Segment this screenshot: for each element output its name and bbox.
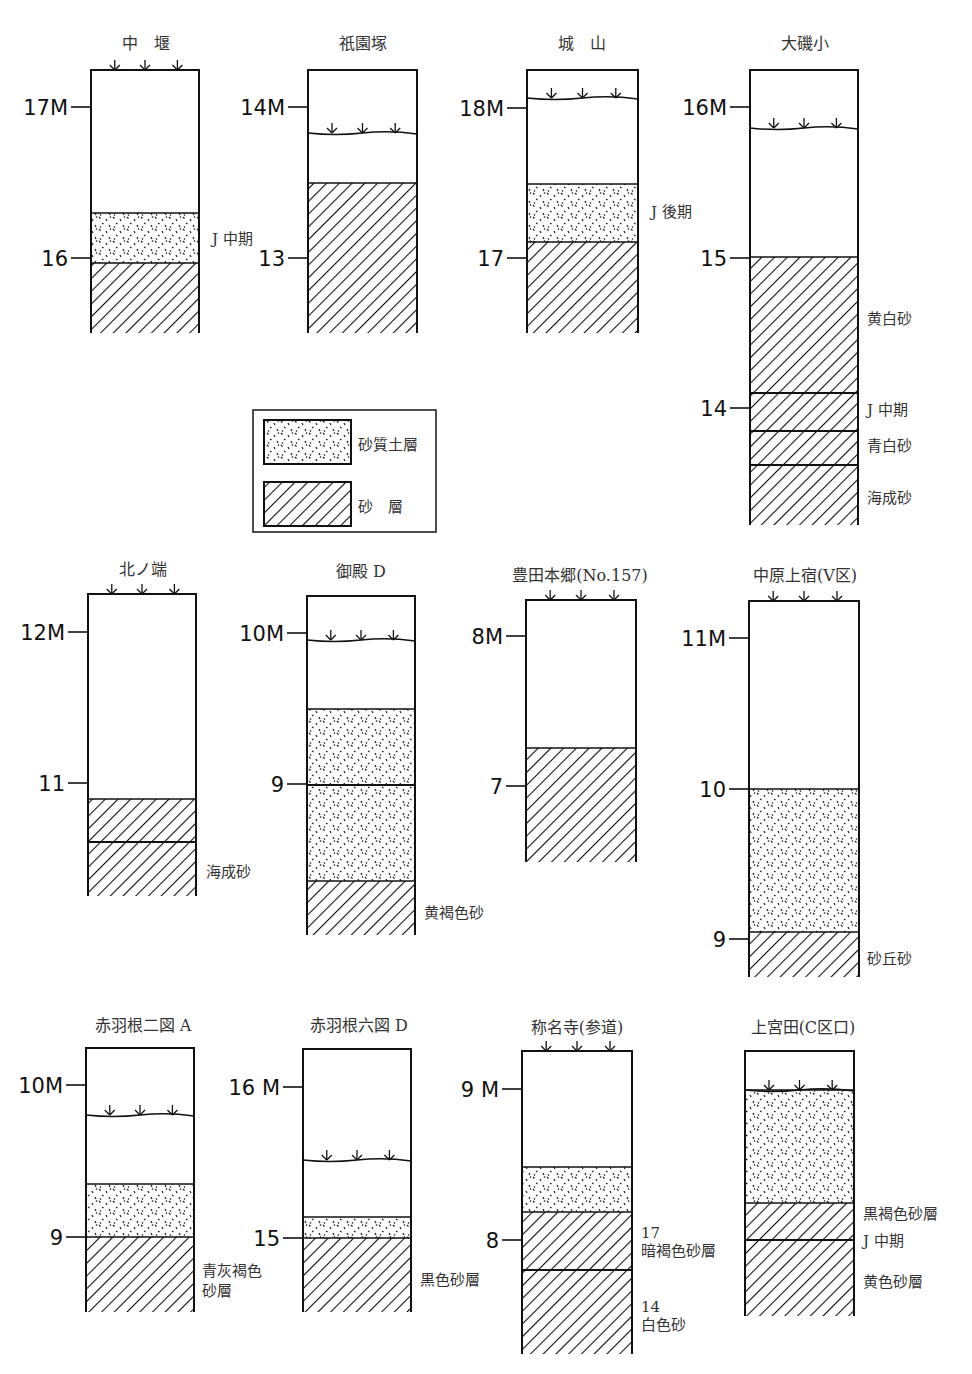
ground-surface-marker <box>768 591 842 601</box>
layer-annotation: J 中期 <box>210 230 253 248</box>
column-title: 中 堰 <box>122 34 170 53</box>
elevation-tick-label: 17M <box>23 96 68 120</box>
column-title: 御殿 D <box>336 562 386 581</box>
elevation-tick-label: 16 M <box>228 1076 280 1100</box>
layer-sandy-soil <box>745 1090 854 1203</box>
layer-sand <box>86 1237 194 1312</box>
column-nakaharakamishuku: 中原上宿(V区)11M109砂丘砂 <box>681 566 912 977</box>
layer-annotation: 青灰褐色 <box>202 1262 262 1280</box>
column-title: 上宮田(C区口) <box>751 1018 856 1037</box>
layer-sandy-soil <box>749 789 859 932</box>
layer-sand <box>303 1238 411 1312</box>
legend-label: 砂 層 <box>358 498 403 516</box>
layer-sand <box>88 799 196 896</box>
ground-surface-marker <box>107 584 180 594</box>
column-nakaseki: 中 堰17M16J 中期 <box>23 34 253 333</box>
elevation-tick-label: 10M <box>239 622 284 646</box>
elevation-tick-label: 14 <box>700 397 727 421</box>
elevation-tick-label: 11M <box>681 627 726 651</box>
layer-annotation: J 中期 <box>865 401 908 419</box>
column-kamimiyata: 上宮田(C区口)黒褐色砂層J 中期黄色砂層 <box>745 1018 938 1316</box>
column-akabane6D: 赤羽根六図 D16 M15黒色砂層 <box>228 1016 480 1312</box>
column-title: 祇園塚 <box>339 34 387 53</box>
layer-sandy-soil <box>86 1184 194 1237</box>
elevation-tick-label: 9 <box>713 928 726 952</box>
layer-annotation: 海成砂 <box>867 489 912 507</box>
elevation-tick-label: 9 M <box>461 1078 499 1102</box>
legend: 砂質土層砂 層 <box>253 410 436 532</box>
layer-sand <box>522 1212 632 1354</box>
layer-sand <box>749 932 859 977</box>
elevation-tick-label: 15 <box>700 247 727 271</box>
legend-label: 砂質土層 <box>358 436 418 454</box>
layer-sandy-soil <box>527 184 638 242</box>
ground-surface-marker <box>541 1041 615 1051</box>
elevation-tick-label: 16M <box>682 96 727 120</box>
layer-annotation: 黄白砂 <box>867 310 912 328</box>
column-title: 大磯小 <box>781 34 829 53</box>
column-toyodahongou: 豊田本郷(No.157)8M7 <box>472 566 648 862</box>
column-title: 赤羽根六図 D <box>310 1016 408 1035</box>
layer-annotation: J 後期 <box>649 203 692 221</box>
elevation-tick-label: 13 <box>258 247 285 271</box>
layer-annotation: 砂層 <box>202 1282 232 1300</box>
layer-annotation: J 中期 <box>861 1232 904 1250</box>
elevation-tick-label: 15 <box>253 1227 280 1251</box>
layer-annotation: 17 <box>641 1224 660 1242</box>
layer-sand <box>308 183 417 333</box>
elevation-tick-label: 18M <box>459 97 504 121</box>
column-kitanohata: 北ノ端12M11海成砂 <box>20 560 251 896</box>
layer-annotation: 青白砂 <box>867 437 912 455</box>
column-oisoshou: 大磯小16M1514黄白砂J 中期青白砂海成砂 <box>682 34 912 525</box>
layer-annotation: 黄色砂層 <box>863 1273 923 1291</box>
layer-sand <box>527 242 638 333</box>
ground-surface-marker <box>110 60 183 70</box>
column-title: 豊田本郷(No.157) <box>512 566 647 585</box>
legend-swatch-hatch <box>264 482 351 526</box>
layer-sandy-soil <box>303 1217 411 1238</box>
column-gionzuka: 祇園塚14M13 <box>240 34 417 333</box>
layer-sandy-soil <box>307 709 415 881</box>
ground-surface-marker <box>545 590 619 600</box>
elevation-tick-label: 9 <box>271 773 284 797</box>
legend-swatch-dots <box>264 420 351 464</box>
elevation-tick-label: 8M <box>472 625 503 649</box>
stratigraphy-diagram: 砂質土層砂 層 中 堰17M16J 中期祇園塚14M13城 山18M17J 後期… <box>0 0 972 1374</box>
layer-annotation: 砂丘砂 <box>867 950 912 968</box>
layer-annotation: 黒色砂層 <box>420 1271 480 1289</box>
column-title: 称名寺(参道) <box>531 1018 623 1037</box>
columns: 中 堰17M16J 中期祇園塚14M13城 山18M17J 後期大磯小16M15… <box>18 34 938 1354</box>
column-akabane2A: 赤羽根二図 A10M9青灰褐色砂層 <box>18 1016 262 1312</box>
elevation-tick-label: 8 <box>486 1229 499 1253</box>
elevation-tick-label: 7 <box>490 775 503 799</box>
elevation-tick-label: 10M <box>18 1074 63 1098</box>
layer-sand <box>307 881 415 935</box>
elevation-tick-label: 17 <box>477 247 504 271</box>
column-gotenD: 御殿 D10M9黄褐色砂 <box>239 562 484 935</box>
elevation-tick-label: 14M <box>240 96 285 120</box>
layer-annotation: 黒褐色砂層 <box>863 1205 938 1223</box>
elevation-tick-label: 9 <box>50 1226 63 1250</box>
layer-annotation: 海成砂 <box>206 863 251 881</box>
column-title: 赤羽根二図 A <box>95 1016 192 1035</box>
column-shiroyama: 城 山18M17J 後期 <box>459 34 692 333</box>
layer-sand <box>745 1203 854 1316</box>
column-title: 中原上宿(V区) <box>753 566 857 585</box>
elevation-tick-label: 11 <box>38 772 65 796</box>
column-shomyoji: 称名寺(参道)9 M817暗褐色砂層14白色砂 <box>461 1018 716 1354</box>
elevation-tick-label: 12M <box>20 621 65 645</box>
layer-annotation: 白色砂 <box>641 1316 686 1334</box>
layer-annotation: 暗褐色砂層 <box>641 1242 716 1260</box>
layer-sand <box>750 257 858 525</box>
layer-sand <box>526 748 636 862</box>
column-title: 北ノ端 <box>119 560 167 579</box>
elevation-tick-label: 10 <box>699 778 726 802</box>
layer-sandy-soil <box>91 213 199 263</box>
layer-annotation: 14 <box>641 1298 660 1316</box>
layer-annotation: 黄褐色砂 <box>424 904 484 922</box>
elevation-tick-label: 16 <box>41 247 68 271</box>
column-title: 城 山 <box>558 34 606 53</box>
layer-sandy-soil <box>522 1167 632 1212</box>
layer-sand <box>91 263 199 333</box>
